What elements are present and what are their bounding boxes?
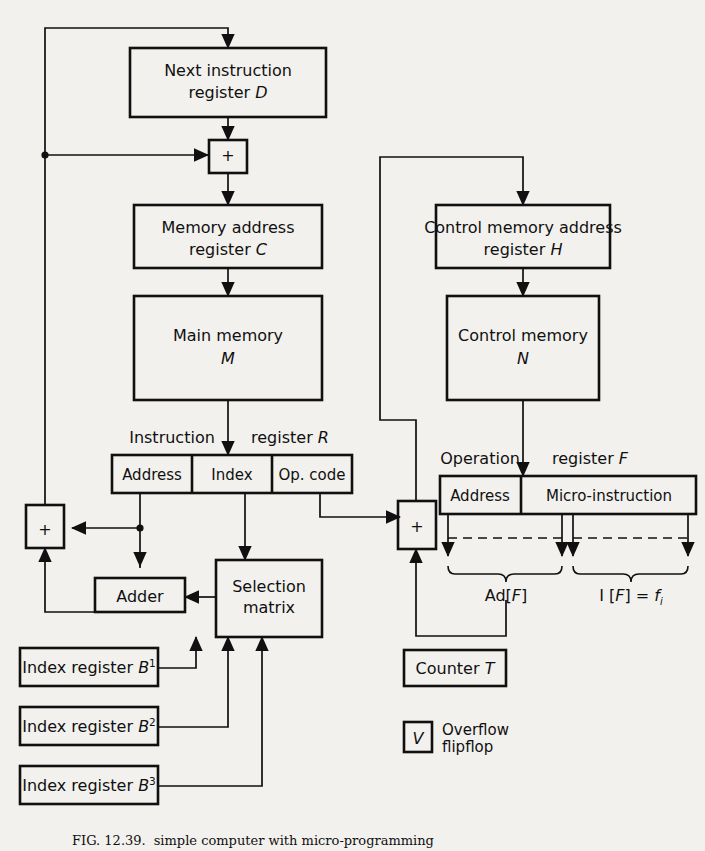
- control-memory-line2: N: [517, 349, 529, 368]
- figure-caption: FIG. 12.39.simple computer with micro-pr…: [72, 833, 434, 848]
- instruction-field-address: Address: [122, 466, 182, 484]
- selection-matrix-line1: Selection: [232, 577, 306, 596]
- index-register-3-label: Index register B3: [22, 775, 156, 795]
- next-instruction-line2: register D: [188, 83, 267, 102]
- box-main-memory[interactable]: [134, 296, 322, 400]
- instruction-register-label-right: register R: [251, 428, 329, 447]
- counter-label: Counter T: [416, 659, 496, 678]
- instruction-field-opcode: Op. code: [278, 466, 345, 484]
- plus-top-symbol: +: [221, 146, 234, 165]
- control-memory-address-line2: register H: [484, 240, 563, 259]
- instruction-register-label-left: Instruction: [129, 428, 215, 447]
- overflow-label-line2: flipflop: [442, 738, 493, 756]
- main-memory-line1: Main memory: [173, 326, 283, 345]
- wire-index-register-2: [158, 637, 228, 727]
- operation-register-label-right: register F: [552, 449, 629, 468]
- operation-field-address: Address: [450, 487, 510, 505]
- box-control-memory[interactable]: [447, 296, 599, 400]
- operation-field-micro: Micro-instruction: [546, 487, 672, 505]
- memory-address-line1: Memory address: [161, 218, 294, 237]
- wire-opcode-to-plus-right: [320, 493, 400, 517]
- operation-register-label-left: Operation: [440, 449, 520, 468]
- overflow-label-line1: Overflow: [442, 721, 509, 739]
- wire-index-register-3: [158, 637, 262, 786]
- brace-micro: [573, 566, 688, 582]
- wire-index-register-1: [158, 637, 196, 668]
- next-instruction-line1: Next instruction: [164, 61, 292, 80]
- main-memory-line2: M: [221, 349, 235, 368]
- diagram-canvas: Next instruction register D + Memory add…: [0, 0, 705, 851]
- overflow-symbol: V: [413, 729, 425, 748]
- brace-address: [448, 566, 562, 582]
- adder-label: Adder: [116, 587, 164, 606]
- wire-adder-to-plus-left: [45, 548, 95, 612]
- control-memory-line1: Control memory: [458, 326, 588, 345]
- control-memory-address-line1: Control memory address: [424, 218, 622, 237]
- figure-page: Next instruction register D + Memory add…: [0, 0, 705, 851]
- annotation-i-f: I [F] = fi: [599, 586, 663, 607]
- plus-right-symbol: +: [410, 517, 423, 536]
- annotation-ad-f: Ad[F]: [485, 586, 528, 605]
- index-register-2-label: Index register B2: [22, 716, 156, 736]
- memory-address-line2: register C: [189, 240, 268, 259]
- index-register-1-label: Index register B1: [22, 657, 156, 677]
- selection-matrix-line2: matrix: [243, 598, 295, 617]
- plus-left-symbol: +: [38, 520, 51, 539]
- instruction-field-index: Index: [211, 466, 252, 484]
